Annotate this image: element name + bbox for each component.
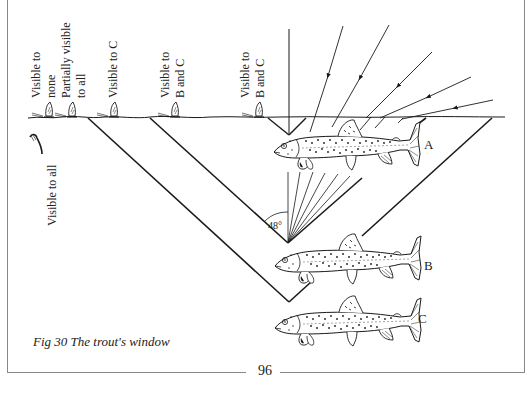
label-visible-to-c: Visible to C — [106, 41, 121, 98]
window-a-cone — [268, 118, 306, 135]
fly-visible-to-b-and-c-1 — [158, 102, 180, 117]
label-partially-visible: Partially visible to all — [59, 22, 89, 98]
fly-visible-to-c — [97, 102, 119, 117]
label-visible-to-b-and-c-2: Visible to B and C — [238, 52, 268, 98]
figure-caption: Fig 30 The trout's window — [33, 334, 170, 350]
trout-c — [275, 296, 421, 346]
fish-label-b: B — [424, 258, 433, 274]
fly-visible-to-b-and-c-2 — [242, 102, 264, 117]
sight-fan — [288, 172, 350, 243]
light-rays — [310, 25, 493, 132]
trout-window-figure: 48° Visible to none Partially visible to… — [0, 0, 532, 393]
water-surface — [28, 116, 505, 118]
page-number: 96 — [250, 363, 280, 379]
label-visible-to-all: Visible to all — [45, 165, 60, 226]
angle-label: 48° — [268, 220, 282, 231]
fish-label-c: C — [418, 311, 427, 327]
label-visible-to-b-and-c-1: Visible to B and C — [158, 52, 188, 98]
trout-b — [275, 234, 421, 284]
fly-visible-to-none — [32, 102, 54, 117]
label-visible-to-none: Visible to none — [29, 52, 59, 98]
fish-label-a: A — [424, 137, 433, 153]
nymph-icon — [30, 134, 42, 154]
fly-partially-visible — [55, 102, 77, 117]
